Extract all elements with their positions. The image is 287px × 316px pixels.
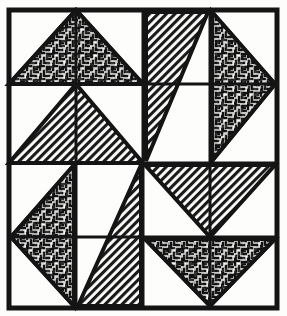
quilt-block-figure: [0, 0, 287, 316]
quilt-block-drawing: [0, 0, 287, 316]
